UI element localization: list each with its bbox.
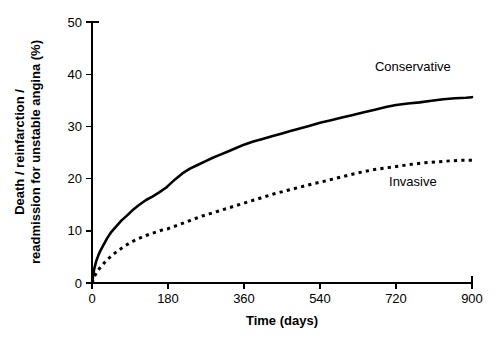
series-label-invasive: Invasive	[389, 174, 437, 189]
x-tick-label: 180	[157, 291, 179, 306]
y-axis-title: Death / reinfarction / readmission for u…	[12, 40, 43, 264]
y-tick-label: 40	[68, 67, 82, 82]
y-tick-label: 10	[68, 223, 82, 238]
x-tick-label: 720	[385, 291, 407, 306]
y-tick-label: 30	[68, 119, 82, 134]
y-axis-ticks: 01020304050	[68, 15, 92, 291]
x-tick-label: 540	[309, 291, 331, 306]
y-axis-title-line2: readmission for unstable angina (%)	[28, 40, 43, 264]
x-axis-ticks: 0180360540720900	[88, 283, 482, 306]
x-tick-label: 360	[233, 291, 255, 306]
series-label-group: ConservativeInvasive	[375, 59, 451, 189]
series-line-conservative	[92, 97, 472, 283]
y-tick-label: 50	[68, 15, 82, 30]
chart-figure: Death / reinfarction / readmission for u…	[0, 0, 500, 349]
series-label-conservative: Conservative	[375, 59, 451, 74]
chart-canvas: Death / reinfarction / readmission for u…	[0, 0, 500, 349]
x-tick-label: 900	[461, 291, 483, 306]
y-axis-title-line1: Death / reinfarction /	[12, 89, 27, 215]
y-tick-label: 0	[75, 276, 82, 291]
x-axis-title: Time (days)	[246, 313, 318, 328]
y-tick-label: 20	[68, 171, 82, 186]
x-tick-label: 0	[88, 291, 95, 306]
data-series-group	[92, 97, 472, 283]
